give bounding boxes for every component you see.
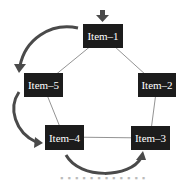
- arrowhead-icon: [136, 151, 146, 160]
- arrowhead-icon: [34, 137, 43, 148]
- arc-arrow-4-3: [66, 155, 141, 173]
- node-item-3: Item–3: [131, 126, 170, 150]
- node-item-1: Item–1: [83, 24, 123, 48]
- arc-arrow-1-5: [20, 27, 78, 66]
- node-item-5: Item–5: [24, 73, 63, 97]
- node-label: Item–2: [141, 79, 172, 91]
- arc-arrow-5-4: [14, 92, 36, 142]
- node-label: Item–5: [28, 79, 59, 91]
- node-label: Item–4: [49, 132, 80, 144]
- caption-cut-off: ▪ ▪ ▪ ▪ ▪ ▪ ▪ ▪ ▪ ▪ ▪ ▪: [60, 173, 180, 181]
- entry-arrow-icon: [96, 10, 109, 22]
- node-label: Item–1: [87, 30, 118, 42]
- node-item-2: Item–2: [138, 73, 176, 97]
- node-item-4: Item–4: [45, 125, 84, 150]
- arrowhead-icon: [14, 64, 26, 73]
- cycle-diagram: Item–1 Item–2 Item–3 Item–4 Item–5 ▪ ▪ ▪…: [0, 0, 186, 181]
- node-label: Item–3: [135, 132, 166, 144]
